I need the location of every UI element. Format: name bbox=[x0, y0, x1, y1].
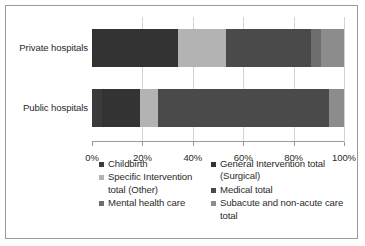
legend-item[interactable]: Medical total bbox=[211, 184, 351, 196]
bar-segment[interactable] bbox=[92, 29, 178, 67]
chart-frame: Private hospitals Public hospitals 0%20%… bbox=[5, 5, 358, 239]
x-axis-tick bbox=[294, 142, 295, 146]
legend-item[interactable]: Specific Intervention total (Other) bbox=[99, 171, 209, 196]
bar-row bbox=[92, 89, 344, 127]
x-axis-tick bbox=[92, 142, 93, 146]
legend-column-left: ChildbirthSpecific Intervention total (O… bbox=[99, 158, 209, 211]
legend-swatch-icon bbox=[211, 162, 216, 167]
legend-column-right: General Intervention total (Surgical)Med… bbox=[211, 158, 351, 223]
legend-swatch-icon bbox=[99, 162, 104, 167]
chart-legend: ChildbirthSpecific Intervention total (O… bbox=[6, 158, 357, 234]
legend-item-label: Mental health care bbox=[108, 197, 209, 209]
bar-segment[interactable] bbox=[178, 29, 226, 67]
bar-segment[interactable] bbox=[329, 89, 344, 127]
legend-item-label: Subacute and non-acute care total bbox=[220, 197, 351, 222]
x-axis-line bbox=[92, 141, 344, 142]
legend-swatch-icon bbox=[211, 201, 216, 206]
legend-item-label: Medical total bbox=[220, 184, 351, 196]
legend-item[interactable]: General Intervention total (Surgical) bbox=[211, 158, 351, 183]
bar-segment[interactable] bbox=[102, 89, 140, 127]
plot-area: 0%20%40%60%80%100% bbox=[92, 17, 344, 142]
gridline bbox=[344, 17, 345, 142]
category-label-private-hospitals: Private hospitals bbox=[8, 42, 88, 53]
bar-row bbox=[92, 29, 344, 67]
bar-segment[interactable] bbox=[158, 89, 329, 127]
legend-item-label: Specific Intervention total (Other) bbox=[108, 171, 209, 196]
legend-item-label: General Intervention total (Surgical) bbox=[220, 158, 351, 183]
x-axis-tick bbox=[243, 142, 244, 146]
legend-item[interactable]: Mental health care bbox=[99, 197, 209, 209]
legend-item[interactable]: Subacute and non-acute care total bbox=[211, 197, 351, 222]
bar-segment[interactable] bbox=[92, 89, 102, 127]
stacked-bar[interactable] bbox=[92, 29, 344, 67]
legend-swatch-icon bbox=[211, 188, 216, 193]
legend-item[interactable]: Childbirth bbox=[99, 158, 209, 170]
bar-segment[interactable] bbox=[226, 29, 312, 67]
legend-swatch-icon bbox=[99, 175, 104, 180]
stacked-bar[interactable] bbox=[92, 89, 344, 127]
bar-segment[interactable] bbox=[311, 29, 321, 67]
bar-segment[interactable] bbox=[321, 29, 344, 67]
x-axis-tick bbox=[344, 142, 345, 146]
category-label-public-hospitals: Public hospitals bbox=[8, 102, 88, 113]
legend-swatch-icon bbox=[99, 201, 104, 206]
x-axis-tick bbox=[193, 142, 194, 146]
legend-item-label: Childbirth bbox=[108, 158, 209, 170]
x-axis-tick bbox=[142, 142, 143, 146]
bar-segment[interactable] bbox=[140, 89, 158, 127]
